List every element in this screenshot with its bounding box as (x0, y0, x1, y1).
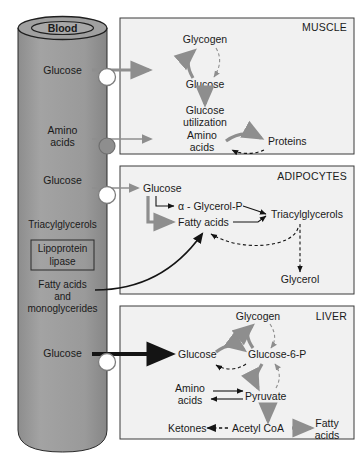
liver-fatty-acids-line1: Fatty (315, 417, 339, 429)
transporter-amino-acids-muscle-icon[interactable] (99, 138, 115, 154)
muscle-glucose-utilization-line2: utilization (183, 116, 227, 128)
muscle-glycogen-label: Glycogen (183, 33, 228, 45)
muscle-glucose-utilization-line1: Glucose (186, 104, 225, 116)
adipocytes-title: ADIPOCYTES (277, 170, 347, 182)
blood-vessel: Blood Glucose Amino acids Glucose Triacy… (18, 17, 107, 453)
liver-glucose-6-p-label: Glucose-6-P (248, 348, 306, 360)
vessel-glucose-liver-label: Glucose (43, 347, 82, 359)
transporter-glucose-muscle-icon[interactable] (99, 69, 116, 86)
vessel-triacylglycerols-label: Triacylglycerols (28, 219, 97, 230)
liver-amino-acids-line1: Amino (175, 382, 205, 394)
muscle-glucose-label: Glucose (186, 78, 225, 90)
liver-glucose-label: Glucose (178, 348, 217, 360)
vessel-fatty-acids-label-line2: and (54, 291, 71, 302)
lipoprotein-lipase-label-line2: lipase (49, 256, 76, 267)
liver-pyruvate-label: Pyruvate (245, 390, 287, 402)
metabolism-diagram: Blood Glucose Amino acids Glucose Triacy… (0, 0, 358, 463)
muscle-title: MUSCLE (302, 21, 347, 33)
blood-label: Blood (48, 22, 78, 34)
vessel-glucose-adipocyte-label: Glucose (43, 174, 82, 186)
transporter-glucose-adipocyte-icon[interactable] (99, 187, 116, 204)
liver-acetyl-coa-label: Acetyl CoA (232, 422, 284, 434)
adipocytes-tissue-panel: ADIPOCYTES Glucose α - Glycerol-P Fatty … (92, 166, 354, 294)
muscle-amino-acids-line2: acids (190, 141, 215, 153)
liver-amino-acids-line2: acids (178, 394, 203, 406)
vessel-amino-acids-label-line2: acids (50, 136, 75, 148)
lipoprotein-lipase-label-line1: Lipoprotein (38, 243, 87, 254)
adipo-fatty-acids-label: Fatty acids (178, 216, 229, 228)
liver-tissue-panel: LIVER Glycogen Glucose Glucose-6-P Amino… (92, 306, 354, 441)
diagram-canvas: Blood Glucose Amino acids Glucose Triacy… (0, 0, 358, 463)
adipo-glucose-label: Glucose (143, 182, 182, 194)
vessel-fatty-acids-label-line1: Fatty acids (38, 279, 86, 290)
transporter-glucose-liver-icon[interactable] (99, 354, 116, 371)
liver-fatty-acids-line2: acids (315, 429, 340, 441)
vessel-amino-acids-label-line1: Amino (48, 124, 78, 136)
liver-glycogen-label: Glycogen (236, 310, 281, 322)
liver-ketones-label: Ketones (168, 422, 207, 434)
adipo-glycerol-p-label: α - Glycerol-P (178, 200, 242, 212)
muscle-proteins-label: Proteins (268, 135, 307, 147)
vessel-glucose-muscle-label: Glucose (43, 64, 82, 76)
liver-title: LIVER (316, 310, 348, 322)
adipo-glycerol-label: Glycerol (281, 273, 320, 285)
adipo-triacylglycerols-label: Triacylglycerols (271, 208, 343, 220)
muscle-tissue-panel: MUSCLE Glycogen Glucose Glucose utilizat… (92, 18, 354, 154)
muscle-amino-acids-line1: Amino (187, 129, 217, 141)
vessel-monoglycerides-label: monoglycerides (27, 303, 97, 314)
